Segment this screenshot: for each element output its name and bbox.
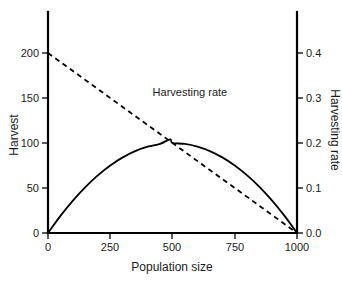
left-tick-label-200: 200 [21,47,39,59]
x-tick-label-1000: 1000 [285,241,309,253]
x-tick-label-0: 0 [45,241,51,253]
x-tick-label-750: 750 [226,241,244,253]
left-tick-label-50: 50 [27,182,39,194]
right-tick-label-0.3: 0.3 [306,92,321,104]
y-axis-title: Harvest [7,114,21,156]
right-tick-label-0.2: 0.2 [306,137,321,149]
harvesting-rate-annotation-label: Harvesting rate [153,86,228,98]
left-tick-label-0: 0 [33,227,39,239]
x-tick-label-500: 500 [163,241,181,253]
x-tick-label-250: 250 [101,241,119,253]
right-tick-label-0.0: 0.0 [306,227,321,239]
left-tick-label-150: 150 [21,92,39,104]
left-tick-label-100: 100 [21,137,39,149]
x-axis-title: Population size [131,260,213,274]
y2-axis-title: Harvesting rate [328,89,342,171]
right-tick-label-0.1: 0.1 [306,182,321,194]
right-tick-label-0.4: 0.4 [306,47,321,59]
harvest-vs-population-chart: 0 50 100 150 200 0.0 0.1 0.2 0.3 0.4 0 2… [0,0,342,281]
